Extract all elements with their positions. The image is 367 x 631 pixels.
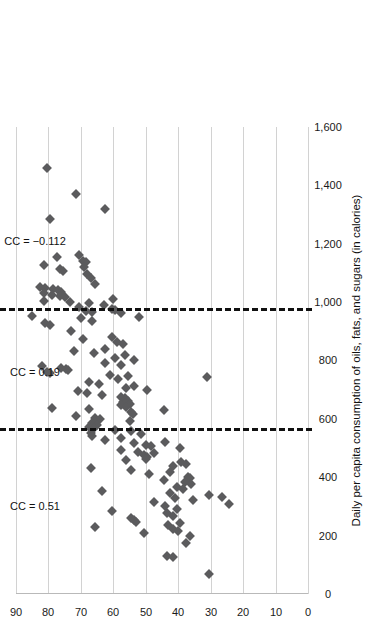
- plot-area: [16, 127, 308, 594]
- data-point: [168, 552, 178, 562]
- cc-annotation-1: CC = 0.19: [11, 366, 61, 378]
- data-point: [134, 312, 144, 322]
- data-point: [188, 495, 198, 505]
- data-point: [129, 356, 139, 366]
- chart-figure: CC = 0.51CC = 0.19CC = −0.11202004006008…: [0, 0, 367, 631]
- data-point: [71, 189, 81, 199]
- ytick-label-90: 90: [10, 606, 22, 618]
- data-point: [204, 490, 214, 500]
- gridline-life-0: [308, 127, 309, 594]
- xtick-label-400: 400: [319, 471, 337, 483]
- data-point: [175, 443, 185, 453]
- data-point: [186, 479, 196, 489]
- data-point: [27, 311, 37, 321]
- xtick-label-1,200: 1,200: [314, 238, 342, 250]
- data-point: [97, 486, 107, 496]
- data-point: [100, 344, 110, 354]
- data-point: [123, 371, 133, 381]
- ytick-label-10: 10: [269, 606, 281, 618]
- data-point: [94, 379, 104, 389]
- data-point: [116, 445, 126, 455]
- cc-annotation-0: CC = 0.51: [11, 500, 61, 512]
- segment-divider-1: [0, 308, 312, 311]
- xtick-label-1,400: 1,400: [314, 179, 342, 191]
- data-point: [129, 381, 139, 391]
- data-point: [82, 388, 92, 398]
- data-point: [204, 569, 214, 579]
- ytick-label-0: 0: [305, 606, 311, 618]
- data-point: [100, 435, 110, 445]
- gridline-life-80: [48, 127, 49, 594]
- data-point: [69, 346, 79, 356]
- gridline-life-20: [243, 127, 244, 594]
- data-point: [63, 365, 73, 375]
- cc-annotation-2: CC = −0.112: [5, 235, 67, 247]
- data-point: [58, 266, 68, 276]
- xtick-label-200: 200: [319, 530, 337, 542]
- data-point: [116, 360, 126, 370]
- segment-divider-0: [0, 428, 312, 431]
- data-point: [86, 463, 96, 473]
- gridline-life-70: [81, 127, 82, 594]
- data-point: [181, 459, 191, 469]
- data-point: [39, 296, 49, 306]
- data-point: [118, 340, 128, 350]
- data-point: [142, 385, 152, 395]
- xtick-label-1,600: 1,600: [314, 121, 342, 133]
- gridline-life-10: [276, 127, 277, 594]
- data-point: [100, 204, 110, 214]
- data-point: [66, 326, 76, 336]
- x-axis-title: Daily per capita consumption of oils, fa…: [350, 195, 362, 527]
- xtick-label-800: 800: [319, 355, 337, 367]
- ytick-label-40: 40: [172, 606, 184, 618]
- data-point: [159, 475, 169, 485]
- data-point: [173, 526, 183, 536]
- data-point: [39, 260, 49, 270]
- data-point: [91, 522, 101, 532]
- gridline-life-30: [211, 127, 212, 594]
- gridline-life-50: [146, 127, 147, 594]
- data-point: [84, 404, 94, 414]
- data-point: [52, 252, 62, 262]
- data-point: [120, 350, 130, 360]
- gridline-life-90: [16, 127, 17, 594]
- data-point: [136, 429, 146, 439]
- data-point: [78, 335, 88, 345]
- data-point: [159, 405, 169, 415]
- data-point: [84, 377, 94, 387]
- data-point: [108, 294, 118, 304]
- data-point: [42, 163, 52, 173]
- rotated-chart-canvas: CC = 0.51CC = 0.19CC = −0.11202004006008…: [0, 0, 367, 631]
- data-point: [45, 321, 55, 331]
- data-point: [89, 349, 99, 359]
- data-point: [224, 499, 234, 509]
- ytick-label-20: 20: [237, 606, 249, 618]
- value-axis-line: [16, 593, 308, 594]
- data-point: [45, 214, 55, 224]
- ytick-label-60: 60: [107, 606, 119, 618]
- data-point: [217, 492, 227, 502]
- ytick-label-70: 70: [75, 606, 87, 618]
- data-point: [126, 465, 136, 475]
- xtick-label-0: 0: [325, 588, 331, 600]
- data-point: [160, 437, 170, 447]
- data-point: [87, 316, 97, 326]
- data-point: [107, 506, 117, 516]
- ytick-label-30: 30: [205, 606, 217, 618]
- ytick-label-80: 80: [42, 606, 54, 618]
- data-point: [121, 455, 131, 465]
- data-point: [100, 358, 110, 368]
- data-point: [113, 374, 123, 384]
- data-point: [97, 390, 107, 400]
- data-point: [116, 433, 126, 443]
- data-point: [149, 497, 159, 507]
- ytick-label-50: 50: [140, 606, 152, 618]
- data-point: [91, 279, 101, 289]
- xtick-label-1,000: 1,000: [314, 296, 342, 308]
- data-point: [139, 528, 149, 538]
- xtick-label-600: 600: [319, 413, 337, 425]
- data-point: [71, 411, 81, 421]
